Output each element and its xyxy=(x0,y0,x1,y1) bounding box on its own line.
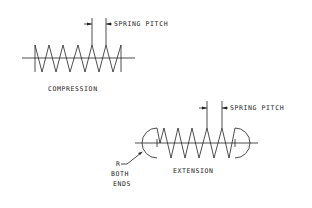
compression-pitch-dimension xyxy=(84,18,112,45)
extension-spring xyxy=(135,128,258,158)
extension-label: EXTENSION xyxy=(173,168,214,175)
compression-label: COMPRESSION xyxy=(48,86,98,93)
arrowhead-icon xyxy=(222,107,227,110)
arrowhead-icon xyxy=(202,107,207,110)
extension-pitch-label: SPRING PITCH xyxy=(230,105,284,112)
radius-note-r: R xyxy=(116,161,121,168)
extension-pitch-dimension xyxy=(199,101,228,128)
arrowhead-icon xyxy=(106,23,111,26)
compression-coil xyxy=(35,45,121,72)
arrowhead-icon xyxy=(87,23,92,26)
radius-note-ends: ENDS xyxy=(113,181,131,188)
compression-pitch-label: SPRING PITCH xyxy=(114,21,168,28)
radius-leader xyxy=(121,153,141,164)
radius-note-both: BOTH xyxy=(111,171,129,178)
spring-diagram: SPRING PITCH COMPRESSION SPRING PITCH EX… xyxy=(0,0,312,208)
compression-spring xyxy=(22,45,135,72)
